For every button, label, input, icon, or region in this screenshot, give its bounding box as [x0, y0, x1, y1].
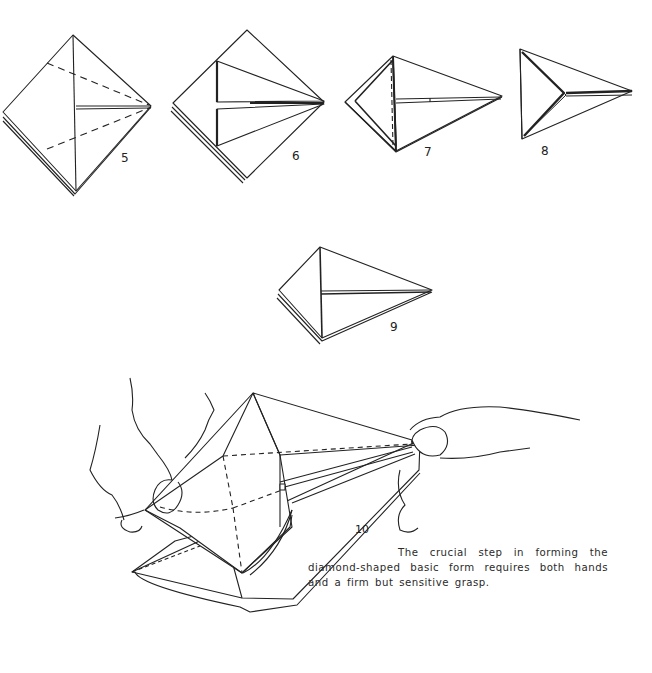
figure-step-6: 6	[171, 30, 324, 183]
step-label-7: 7	[424, 145, 432, 159]
figure-step-9: 9	[277, 247, 432, 344]
figure-caption: The crucial step in forming the diamond-…	[308, 545, 608, 590]
figure-step-7: 7	[345, 56, 502, 159]
figure-step-8: 8	[520, 49, 632, 158]
step-label-6: 6	[292, 149, 300, 163]
step-label-9: 9	[390, 320, 398, 334]
caption-text: The crucial step in forming the diamond-…	[308, 547, 608, 588]
step-label-10: 10	[355, 523, 369, 536]
step-label-8: 8	[541, 144, 549, 158]
step-label-5: 5	[121, 151, 129, 165]
figure-step-5: 5	[3, 35, 151, 196]
